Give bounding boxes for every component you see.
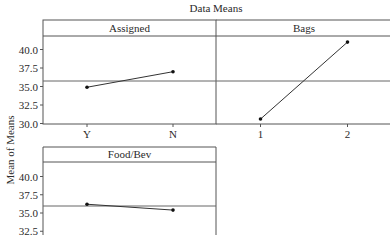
panel-food-bev: Food/Bev 40.037.535.032.5 — [19, 147, 216, 235]
panel-title-bags: Bags — [293, 22, 315, 34]
data-point — [346, 40, 350, 44]
data-point — [85, 202, 89, 206]
series-line-food-bev — [87, 204, 173, 210]
data-point — [171, 208, 175, 212]
panel-title-food-bev: Food/Bev — [108, 148, 152, 160]
y-tick-label: 37.5 — [19, 189, 39, 201]
x-tick-label: Y — [83, 128, 91, 140]
x-tick-label: 2 — [345, 128, 351, 140]
y-axis-top: 40.037.535.032.530.0 — [19, 44, 43, 130]
y-tick-label: 32.5 — [19, 99, 39, 111]
data-point — [171, 70, 175, 74]
y-tick-label: 35.0 — [19, 81, 39, 93]
series-line-assigned — [87, 72, 173, 88]
y-axis-bottom: 40.037.535.032.5 — [19, 171, 43, 236]
y-tick-label: 37.5 — [19, 62, 39, 74]
data-point — [259, 117, 263, 121]
chart-title: Data Means — [190, 2, 243, 14]
y-tick-label: 40.0 — [19, 44, 39, 56]
y-tick-label: 40.0 — [19, 171, 39, 183]
y-tick-label: 32.5 — [19, 225, 39, 235]
y-tick-label: 35.0 — [19, 207, 39, 219]
main-effects-plot: Data Means Mean of Means Assigned 40.037… — [0, 0, 390, 235]
panel-bags: Bags 1 2 — [216, 20, 390, 140]
y-axis-label: Mean of Means — [4, 115, 16, 184]
data-point — [85, 85, 89, 89]
x-tick-label: N — [169, 128, 177, 140]
panel-title-assigned: Assigned — [109, 22, 150, 34]
y-tick-label: 30.0 — [19, 118, 39, 130]
x-tick-label: 1 — [258, 128, 264, 140]
panel-assigned: Assigned 40.037.535.032.530.0 Y N — [19, 20, 216, 140]
